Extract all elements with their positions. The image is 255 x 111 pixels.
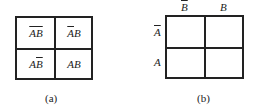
kmap-b-col-header-b: B [220,1,227,13]
kmap-b-col-header-bbar: B [181,1,188,13]
kmap-b-row-header-a: A [154,56,161,68]
figure-b-caption: (b) [197,92,210,104]
kmap-a-grid: AB AB AB AB [15,16,93,80]
kmap-b-horizontal-divider [167,47,242,49]
kmap-a-cell-a-bbar: AB [17,57,55,71]
kmap-b-row-header-abar: A [154,26,161,38]
kmap-a-cell-a-b: AB [55,57,93,71]
figure-a-caption: (a) [45,92,57,104]
kmap-a-horizontal-divider [17,48,91,50]
kmap-a-cell-abar-bbar: AB [17,26,55,40]
kmap-b-grid [165,15,244,79]
kmap-a-cell-abar-b: AB [55,26,93,40]
